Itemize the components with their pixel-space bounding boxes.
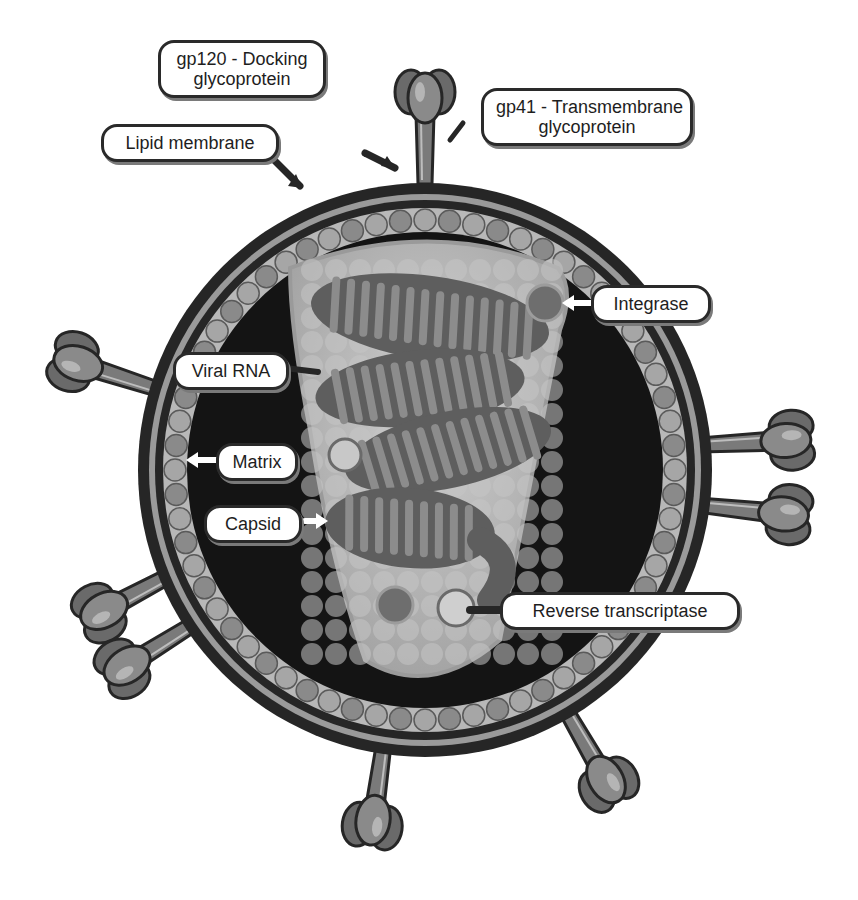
label-matrix-text: Matrix xyxy=(233,452,282,472)
label-viral-rna-text: Viral RNA xyxy=(192,361,271,381)
label-reverse-transcriptase: Reverse transcriptase xyxy=(500,592,740,630)
label-gp41-line1: gp41 - Transmembrane xyxy=(496,97,678,117)
label-reverse-transcriptase-text: Reverse transcriptase xyxy=(532,601,707,621)
label-capsid: Capsid xyxy=(204,505,302,543)
label-integrase: Integrase xyxy=(591,285,711,323)
integrase-molecule xyxy=(527,285,563,321)
label-capsid-text: Capsid xyxy=(225,514,281,534)
label-gp120-line2: glycoprotein xyxy=(173,69,311,89)
label-integrase-text: Integrase xyxy=(613,294,688,314)
label-lipid-membrane: Lipid membrane xyxy=(101,124,279,162)
spike-right-upper xyxy=(698,409,815,475)
label-matrix: Matrix xyxy=(216,443,298,481)
label-gp41: gp41 - Transmembrane glycoprotein xyxy=(481,88,693,146)
label-gp41-line2: glycoprotein xyxy=(496,117,678,137)
enzyme-molecule xyxy=(329,439,361,471)
label-viral-rna: Viral RNA xyxy=(173,352,289,390)
label-lipid-membrane-text: Lipid membrane xyxy=(125,133,254,153)
label-gp120: gp120 - Docking glycoprotein xyxy=(158,40,326,98)
enzyme-molecule-2 xyxy=(377,587,413,623)
spike-right-lower xyxy=(695,475,815,547)
spike-top xyxy=(395,70,455,184)
label-gp120-line1: gp120 - Docking xyxy=(173,49,311,69)
